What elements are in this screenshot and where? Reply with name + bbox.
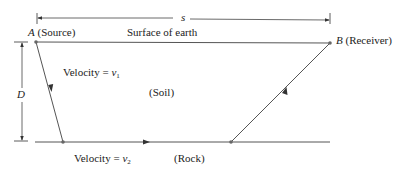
- velocity1-prefix: Velocity =: [63, 66, 111, 78]
- surface-label: Surface of earth: [127, 27, 197, 38]
- velocity1-sub: 1: [116, 72, 120, 80]
- ray-up-segment: [231, 43, 330, 142]
- refraction-point-1: [61, 140, 65, 144]
- point-b-label: B (Receiver): [336, 35, 392, 46]
- surface-line: [37, 42, 330, 43]
- ray-down-segment: [36, 42, 63, 142]
- distance-label: s: [178, 12, 188, 23]
- velocity2-sub: 2: [127, 158, 131, 166]
- point-a-letter: A: [28, 26, 35, 38]
- rock-label: (Rock): [174, 153, 205, 164]
- point-a-desc: (Source): [37, 26, 75, 38]
- point-a-label: A (Source): [28, 27, 75, 38]
- soil-label: (Soil): [149, 87, 174, 98]
- point-b-marker: [328, 41, 332, 45]
- velocity2-prefix: Velocity =: [74, 152, 122, 164]
- depth-label: D: [17, 89, 25, 100]
- point-b-letter: B: [336, 34, 343, 46]
- ray-horizontal-arrow-icon: [143, 140, 150, 145]
- point-b-desc: (Receiver): [345, 34, 391, 46]
- point-a-marker: [34, 40, 38, 44]
- velocity2-label: Velocity = v2: [74, 153, 131, 166]
- refraction-point-2: [229, 140, 233, 144]
- velocity1-label: Velocity = v1: [63, 67, 120, 80]
